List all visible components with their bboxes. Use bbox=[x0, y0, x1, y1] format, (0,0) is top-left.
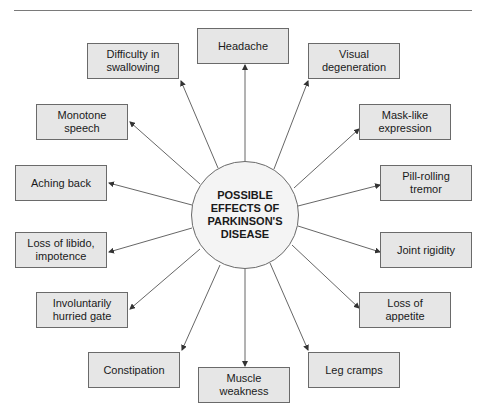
effect-box-headache: Headache bbox=[197, 28, 289, 64]
effect-box-libido: Loss of libido, impotence bbox=[15, 232, 107, 268]
connector-arrow bbox=[109, 228, 192, 252]
effect-box-appetite: Loss of appetite bbox=[359, 292, 451, 328]
connector-arrow bbox=[130, 122, 200, 184]
effect-box-monotone: Monotone speech bbox=[36, 104, 128, 140]
effect-box-aching: Aching back bbox=[15, 165, 107, 201]
connector-arrow bbox=[109, 183, 192, 205]
connector-arrow bbox=[298, 185, 380, 206]
effect-box-constipation: Constipation bbox=[88, 352, 180, 388]
connector-arrow bbox=[292, 245, 359, 308]
connector-arrow bbox=[270, 263, 308, 350]
effect-box-joint: Joint rigidity bbox=[380, 232, 472, 268]
effect-box-leg: Leg cramps bbox=[308, 352, 400, 388]
effect-box-hurried: Involuntarily hurried gate bbox=[36, 292, 128, 328]
effect-box-muscle: Muscle weakness bbox=[198, 367, 290, 403]
effect-box-swallowing: Difficulty in swallowing bbox=[87, 43, 179, 79]
connector-arrow bbox=[182, 265, 220, 350]
connector-arrow bbox=[181, 81, 218, 168]
connector-arrow bbox=[274, 81, 308, 169]
effect-box-pill: Pill-rolling tremor bbox=[380, 165, 472, 201]
center-hub: POSSIBLE EFFECTS OF PARKINSON'S DISEASE bbox=[191, 161, 299, 269]
connector-arrow bbox=[130, 249, 200, 309]
effect-box-visual: Visual degeneration bbox=[308, 43, 400, 79]
connector-arrow bbox=[294, 129, 359, 188]
effect-box-mask: Mask-like expression bbox=[359, 104, 451, 140]
connector-arrow bbox=[298, 226, 380, 252]
